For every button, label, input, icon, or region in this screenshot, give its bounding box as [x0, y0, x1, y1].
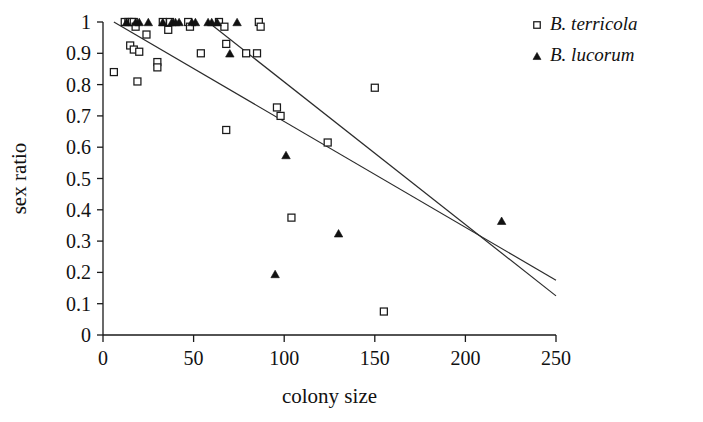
ticks-group — [97, 22, 556, 342]
x-tick-label: 250 — [541, 347, 571, 369]
regression-line — [208, 22, 556, 296]
plot-canvas: 00.10.20.30.40.50.60.70.80.9105010015020… — [0, 0, 703, 422]
data-point-square — [154, 64, 161, 71]
data-point-square — [380, 308, 387, 315]
y-tick-label: 0 — [81, 324, 91, 346]
data-point-square — [243, 50, 250, 57]
y-axis-title: sex ratio — [7, 143, 31, 215]
data-point-square — [257, 23, 264, 30]
legend-label: B. terricola — [550, 13, 638, 34]
scatter-plot-figure: 00.10.20.30.40.50.60.70.80.9105010015020… — [0, 0, 703, 422]
data-point-square — [288, 214, 295, 221]
data-point-square — [273, 104, 280, 111]
y-tick-label: 0.2 — [66, 261, 91, 283]
tick-labels-group: 00.10.20.30.40.50.60.70.80.9105010015020… — [66, 11, 571, 369]
data-point-square — [223, 126, 230, 133]
data-point-triangle — [226, 50, 235, 57]
data-point-square — [136, 48, 143, 55]
data-point-triangle — [144, 18, 153, 25]
data-point-square — [277, 112, 284, 119]
y-tick-label: 0.5 — [66, 168, 91, 190]
legend-marker-square — [534, 22, 541, 29]
y-tick-label: 0.8 — [66, 74, 91, 96]
y-tick-label: 0.4 — [66, 199, 91, 221]
data-point-square — [143, 31, 150, 38]
x-tick-label: 50 — [184, 347, 204, 369]
legend-marker-triangle — [533, 52, 541, 59]
data-point-square — [371, 84, 378, 91]
data-point-square — [197, 50, 204, 57]
y-tick-label: 0.3 — [66, 230, 91, 252]
data-point-triangle — [233, 18, 242, 25]
y-tick-label: 0.7 — [66, 105, 91, 127]
data-point-square — [221, 23, 228, 30]
y-tick-label: 0.1 — [66, 293, 91, 315]
regression-line — [114, 22, 556, 280]
data-point-square — [324, 139, 331, 146]
data-point-square — [110, 69, 117, 76]
data-point-square — [254, 50, 261, 57]
y-tick-label: 1 — [81, 11, 91, 33]
regression-lines-group — [114, 22, 556, 296]
axes-group — [103, 22, 556, 335]
x-axis-title: colony size — [282, 384, 377, 408]
data-point-square — [134, 78, 141, 85]
x-tick-label: 150 — [360, 347, 390, 369]
data-point-triangle — [497, 217, 506, 224]
data-point-triangle — [334, 230, 343, 237]
x-tick-label: 100 — [269, 347, 299, 369]
data-point-square — [165, 26, 172, 33]
data-point-square — [223, 40, 230, 47]
y-tick-label: 0.6 — [66, 136, 91, 158]
data-point-triangle — [282, 151, 291, 158]
legend-label: B. lucorum — [550, 44, 634, 65]
legend: B. terricolaB. lucorum — [533, 13, 638, 65]
x-tick-label: 200 — [450, 347, 480, 369]
x-tick-label: 0 — [98, 347, 108, 369]
y-tick-label: 0.9 — [66, 42, 91, 64]
data-points-group — [110, 18, 506, 315]
data-point-triangle — [271, 270, 280, 277]
